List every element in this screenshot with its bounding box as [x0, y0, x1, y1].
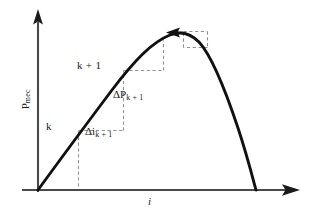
y-axis-label-subscript: mec: [23, 89, 32, 103]
label-point-k: k: [46, 121, 52, 132]
mppt-power-curve-figure: k k + 1 ΔPk + 1 Δik + 1 i Pmec: [0, 0, 311, 216]
y-axis-label: Pmec: [20, 71, 33, 127]
label-delta-p: ΔPk + 1: [113, 89, 144, 102]
figure-canvas: [0, 0, 311, 216]
label-delta-i-base: Δi: [85, 125, 95, 137]
label-point-k-plus-1: k + 1: [77, 60, 101, 71]
label-delta-i-subscript: k + 1: [95, 130, 112, 139]
label-delta-p-subscript: k + 1: [126, 93, 143, 102]
axes-group: [22, 9, 300, 196]
y-axis-label-base: P: [19, 103, 31, 109]
label-delta-i: Δik + 1: [85, 126, 112, 139]
label-delta-p-base: ΔP: [113, 88, 126, 100]
power-curve: [38, 33, 256, 190]
x-axis-label: i: [148, 196, 151, 207]
